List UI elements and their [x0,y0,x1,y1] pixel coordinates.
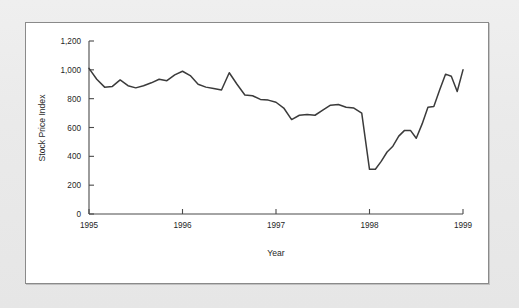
figure-frame: 02004006008001,0001,200 1995199619971998… [25,22,489,284]
x-tick-label: 1998 [360,221,379,230]
y-tick-label: 1,200 [61,37,82,46]
y-tick-label: 0 [76,210,81,219]
x-axis-title: Year [267,248,285,258]
data-series-line [89,68,463,169]
x-tick-label: 1997 [267,221,286,230]
y-tick-label: 600 [67,124,81,133]
stock-price-index-line-chart: 02004006008001,0001,200 1995199619971998… [26,23,488,283]
y-tick-label: 1,000 [61,66,82,75]
y-tick-label: 400 [67,152,81,161]
y-tick-label: 200 [67,181,81,190]
x-tick-label: 1996 [173,221,192,230]
x-tick-label: 1995 [80,221,99,230]
y-tick-label: 800 [67,95,81,104]
x-axis-ticks: 19951996199719981999 [80,209,473,230]
y-axis-title: Stock Price Index [37,94,47,162]
x-tick-label: 1999 [454,221,473,230]
